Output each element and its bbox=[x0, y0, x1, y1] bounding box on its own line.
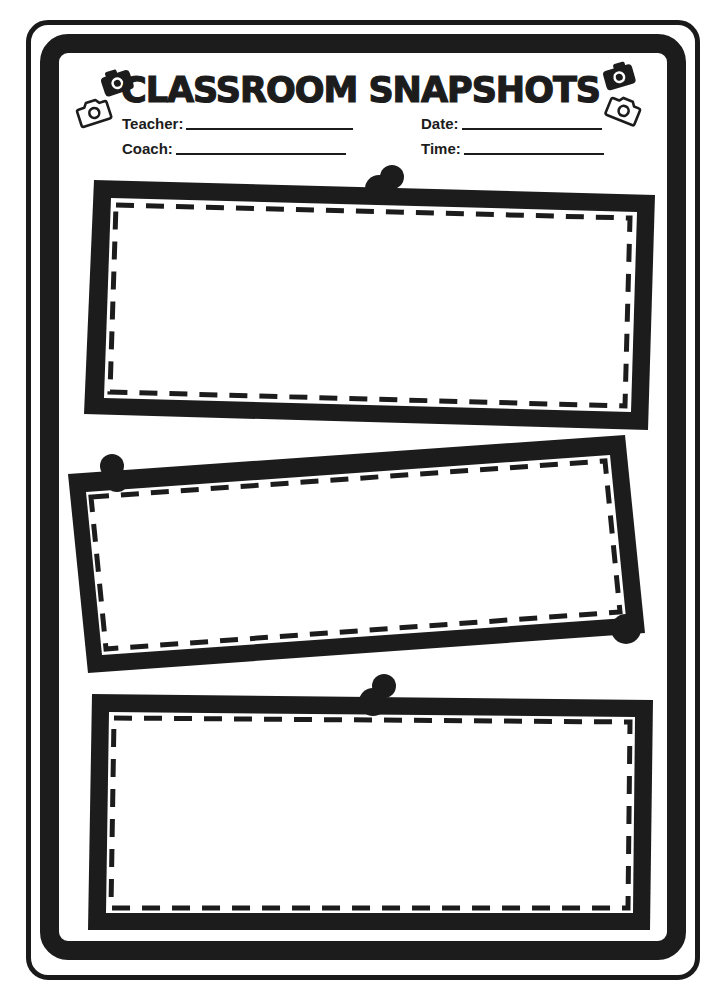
snapshot-frame-2[interactable] bbox=[68, 435, 645, 673]
snapshot-frames bbox=[0, 0, 721, 990]
snapshot-frame-3[interactable] bbox=[88, 674, 653, 930]
snapshot-frame-1[interactable] bbox=[84, 165, 655, 430]
